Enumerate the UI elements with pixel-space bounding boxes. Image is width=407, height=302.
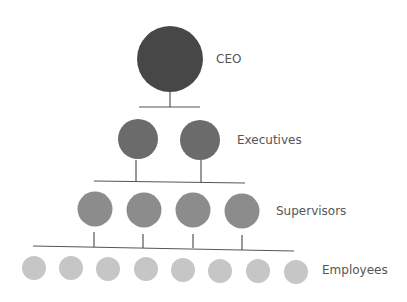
employee-node <box>246 259 270 283</box>
executive-node <box>118 119 158 159</box>
supervisor-node <box>127 193 162 228</box>
executive-node <box>180 120 220 160</box>
supervisor-node <box>176 193 211 228</box>
org-chart <box>0 0 407 302</box>
supervisor-node <box>225 194 260 229</box>
level-label-supervisors: Supervisors <box>276 204 346 218</box>
connector-lines <box>33 92 294 251</box>
employee-node <box>284 260 308 284</box>
level-label-executives: Executives <box>237 133 302 147</box>
level-label-employees: Employees <box>322 263 388 277</box>
ceo-node <box>137 26 203 92</box>
supervisor-node <box>78 192 113 227</box>
employee-node <box>134 257 158 281</box>
employee-node <box>59 256 83 280</box>
employee-node <box>96 257 120 281</box>
employee-node <box>171 258 195 282</box>
employee-node <box>22 256 46 280</box>
level-label-ceo: CEO <box>216 52 241 66</box>
employee-node <box>208 259 232 283</box>
